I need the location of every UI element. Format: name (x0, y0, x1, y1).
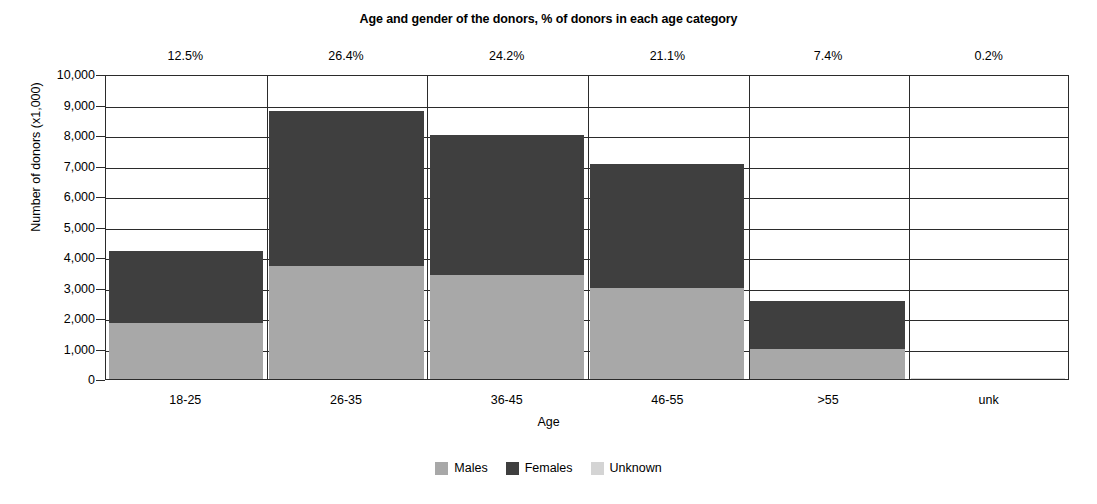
bar-stack (911, 378, 1065, 380)
y-axis-tick-label: 2,000 (37, 313, 95, 325)
y-axis-tick-label: 0 (37, 374, 95, 386)
category-percent-label: 0.2% (908, 45, 1069, 67)
legend-swatch-icon (435, 462, 448, 475)
bar-stack (590, 164, 744, 379)
bar-stack (109, 251, 263, 379)
y-axis-tick-label: 5,000 (37, 222, 95, 234)
bars-layer (106, 76, 1068, 379)
legend-label: Males (454, 462, 487, 475)
bar-group (747, 76, 907, 379)
y-axis-tick (96, 136, 105, 137)
y-axis-tick-label: 4,000 (37, 252, 95, 264)
y-axis-tick (96, 319, 105, 320)
y-axis-tick (96, 380, 105, 381)
bar-stack (269, 111, 423, 379)
bar-group (587, 76, 747, 379)
bar-segment-males (269, 266, 423, 379)
legend-item[interactable]: Males (435, 462, 487, 475)
y-axis-tick-label: 6,000 (37, 191, 95, 203)
category-percent-label: 21.1% (587, 45, 748, 67)
category-percent-label: 7.4% (748, 45, 909, 67)
y-axis-tick-label: 8,000 (37, 130, 95, 142)
y-axis-tick (96, 228, 105, 229)
bar-group (106, 76, 266, 379)
legend-item[interactable]: Unknown (591, 462, 662, 475)
bar-group (427, 76, 587, 379)
plot-area (105, 75, 1069, 380)
category-percent-label: 26.4% (266, 45, 427, 67)
x-axis-tick-label: 36-45 (426, 390, 587, 410)
bar-stack (750, 301, 904, 379)
x-axis-tick-label: 46-55 (587, 390, 748, 410)
x-axis-tick-labels: 18-2526-3536-4546-55>55unk (105, 390, 1069, 410)
bar-segment-unknown (911, 378, 1065, 380)
x-axis-title: Age (0, 415, 1097, 429)
bar-segment-females (590, 164, 744, 288)
chart-title: Age and gender of the donors, % of donor… (0, 12, 1097, 26)
y-axis-tick (96, 106, 105, 107)
legend-item[interactable]: Females (506, 462, 573, 475)
x-axis-tick-label: 18-25 (105, 390, 266, 410)
x-axis-tick-label: >55 (748, 390, 909, 410)
y-axis-tick (96, 350, 105, 351)
legend-label: Unknown (610, 462, 662, 475)
bar-segment-females (430, 135, 584, 275)
legend-label: Females (525, 462, 573, 475)
legend: MalesFemalesUnknown (0, 462, 1097, 475)
bar-segment-females (750, 301, 904, 348)
bar-group (266, 76, 426, 379)
y-axis-tick (96, 289, 105, 290)
bar-stack (430, 135, 584, 379)
category-percent-label: 12.5% (105, 45, 266, 67)
legend-swatch-icon (591, 462, 604, 475)
x-axis-tick-label: unk (908, 390, 1069, 410)
y-axis-tick-label: 7,000 (37, 161, 95, 173)
y-axis-line (105, 75, 106, 380)
bar-segment-males (430, 275, 584, 379)
bar-segment-females (109, 251, 263, 323)
bar-segment-males (109, 323, 263, 379)
y-axis-tick (96, 75, 105, 76)
legend-swatch-icon (506, 462, 519, 475)
y-axis-tick (96, 258, 105, 259)
bar-segment-males (590, 288, 744, 380)
category-percent-label: 24.2% (426, 45, 587, 67)
y-axis-tick-label: 9,000 (37, 100, 95, 112)
bar-segment-males (750, 349, 904, 380)
category-percent-label-row: 12.5%26.4%24.2%21.1%7.4%0.2% (105, 45, 1069, 67)
bar-segment-females (269, 111, 423, 267)
y-axis-tick-label: 1,000 (37, 344, 95, 356)
y-axis-title: Number of donors (x1,000) (29, 27, 43, 287)
y-axis-tick-label: 3,000 (37, 283, 95, 295)
y-axis-tick (96, 167, 105, 168)
y-axis-tick (96, 197, 105, 198)
bar-group (908, 76, 1068, 379)
x-axis-tick-label: 26-35 (266, 390, 427, 410)
donor-age-gender-chart: Age and gender of the donors, % of donor… (0, 0, 1097, 504)
y-axis-tick-label: 10,000 (37, 69, 95, 81)
